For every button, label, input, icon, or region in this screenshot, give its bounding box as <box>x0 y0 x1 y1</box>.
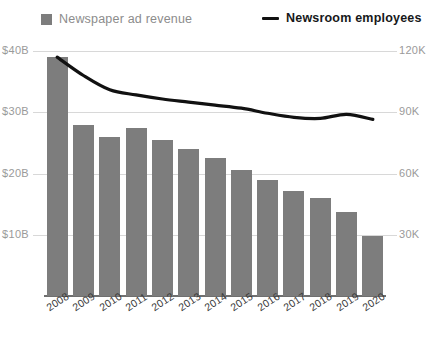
y-axis-right-tick-label: 120K <box>399 44 426 56</box>
line-series-newsroom-employees <box>44 51 386 296</box>
y-axis-right-tick-label: 90K <box>399 105 419 117</box>
legend-item-newsroom-employees: Newsroom employees <box>262 11 422 25</box>
line-dash-icon <box>262 17 279 20</box>
newspaper-revenue-chart: Newspaper ad revenue Newsroom employees … <box>0 0 443 342</box>
plot-area <box>44 51 386 296</box>
legend-item-newspaper-ad-revenue: Newspaper ad revenue <box>41 12 192 26</box>
y-axis-left-tick-label: $20B <box>2 167 29 179</box>
y-axis-left-tick <box>33 235 44 236</box>
y-axis-right-tick <box>386 235 397 236</box>
y-axis-left-tick-label: $10B <box>2 228 29 240</box>
newsroom-employees-line <box>44 51 386 296</box>
y-axis-left-tick <box>33 112 44 113</box>
y-axis-left-tick <box>33 51 44 52</box>
line-path <box>57 57 373 119</box>
legend-label-newspaper-ad-revenue: Newspaper ad revenue <box>59 12 192 26</box>
y-axis-right-tick <box>386 51 397 52</box>
y-axis-left-tick-label: $40B <box>2 44 29 56</box>
y-axis-right-tick-label: 30K <box>399 228 419 240</box>
y-axis-right-tick <box>386 112 397 113</box>
x-axis: 2008200920102011201220132014201520162017… <box>44 297 386 342</box>
y-axis-right-tick-label: 60K <box>399 167 419 179</box>
chart-legend: Newspaper ad revenue Newsroom employees <box>0 0 443 40</box>
y-axis-left-tick <box>33 174 44 175</box>
legend-label-newsroom-employees: Newsroom employees <box>286 11 422 25</box>
square-swatch-icon <box>41 14 52 25</box>
y-axis-right-tick <box>386 174 397 175</box>
y-axis-left-tick-label: $30B <box>2 105 29 117</box>
